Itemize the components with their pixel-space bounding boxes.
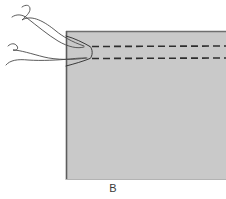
figure-caption-label: B [0, 182, 226, 195]
figure-container: B [0, 0, 226, 199]
figure-illustration [0, 0, 226, 199]
gray-block [66, 31, 226, 180]
